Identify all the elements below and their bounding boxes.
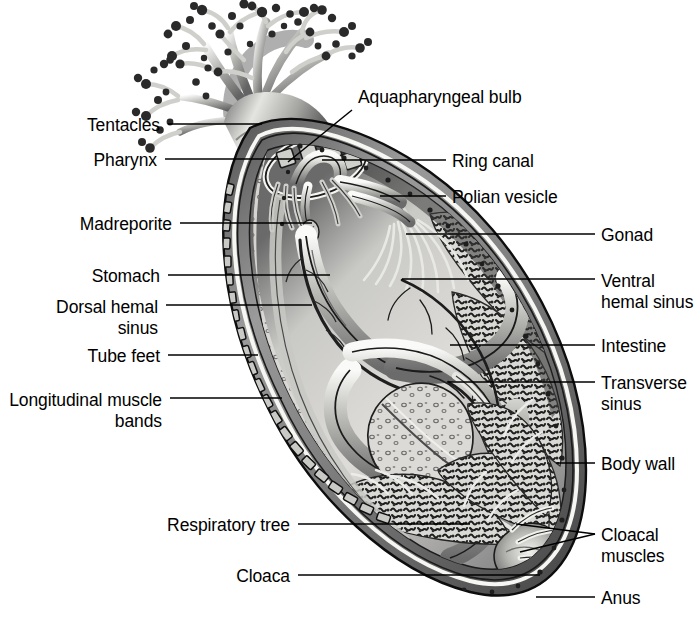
label-ventral-hemal-sinus: Ventral hemal sinus	[601, 271, 693, 313]
label-tube-feet: Tube feet	[88, 346, 160, 367]
label-ring-canal: Ring canal	[452, 151, 534, 172]
label-respiratory-tree: Respiratory tree	[167, 515, 290, 536]
label-cloacal-muscles: Cloacal muscles	[601, 525, 664, 567]
label-transverse-sinus: Transverse sinus	[601, 373, 687, 415]
label-tentacles: Tentacles	[87, 115, 160, 136]
anatomy-figure: TentaclesPharynxMadreporiteStomachDorsal…	[0, 0, 696, 623]
label-intestine: Intestine	[601, 336, 666, 357]
label-longitudinal-muscle-bands: Longitudinal muscle bands	[9, 390, 162, 432]
label-aquapharyngeal-bulb: Aquapharyngeal bulb	[358, 87, 522, 108]
label-cloaca: Cloaca	[236, 566, 290, 587]
label-madreporite: Madreporite	[80, 214, 172, 235]
label-polian-vesicle: Polian vesicle	[452, 187, 558, 208]
label-body-wall: Body wall	[601, 454, 675, 475]
label-dorsal-hemal-sinus: Dorsal hemal sinus	[56, 297, 158, 339]
label-stomach: Stomach	[92, 266, 160, 287]
label-pharynx: Pharynx	[94, 150, 158, 171]
label-anus: Anus	[601, 588, 641, 609]
label-gonad: Gonad	[601, 225, 653, 246]
